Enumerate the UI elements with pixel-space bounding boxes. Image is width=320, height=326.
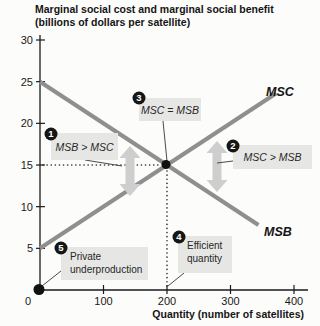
callout-text-1: MSB > MSC [55, 141, 113, 153]
x-tick-label: 0 [25, 295, 31, 307]
y-tick-label: 15 [21, 159, 33, 171]
callout-text-5: underproduction [70, 264, 142, 275]
callout-badge-number-2: 2 [230, 140, 235, 151]
x-tick-label: 400 [285, 295, 303, 307]
y-tick-label: 5 [27, 242, 33, 254]
callout-leader-1 [85, 160, 122, 166]
callout-badge-number-5: 5 [58, 242, 64, 253]
callout-badge-number-3: 3 [136, 92, 141, 103]
callout-text-2: MSC > MSB [243, 151, 301, 163]
y-tick-label: 30 [21, 34, 33, 46]
callout-leader-4 [168, 273, 184, 286]
efficient-point [162, 160, 171, 169]
y-tick-label: 25 [21, 76, 33, 88]
callout-text-3: MSC = MSB [141, 104, 199, 116]
callout-badge-number-1: 1 [48, 128, 54, 139]
y-tick-label: 20 [21, 117, 33, 129]
x-axis-label: Quantity (number of satellites) [152, 308, 304, 320]
callout-badge-number-4: 4 [176, 231, 182, 242]
callout-leader-5 [42, 271, 61, 286]
curve-label-msc: MSC [266, 85, 295, 99]
msc-exceeds-msb-gap-arrow [207, 141, 228, 192]
callout-leader-3 [163, 121, 167, 161]
figure: Marginal social cost and marginal social… [0, 0, 320, 326]
x-tick-label: 200 [158, 295, 176, 307]
x-tick-label: 300 [221, 295, 239, 307]
callout-text-5: Private [70, 251, 102, 262]
msc-msb-chart: 510152025300100200300400MSCMSBMSB > MSC1… [0, 0, 320, 326]
curve-label-msb: MSB [264, 225, 292, 239]
x-tick-label: 100 [94, 295, 112, 307]
callout-text-4: quantity [187, 253, 222, 264]
msb-exceeds-msc-gap-arrow [120, 146, 141, 196]
y-tick-label: 10 [21, 201, 33, 213]
callout-text-4: Efficient [187, 240, 223, 251]
private-production-point [34, 284, 45, 295]
